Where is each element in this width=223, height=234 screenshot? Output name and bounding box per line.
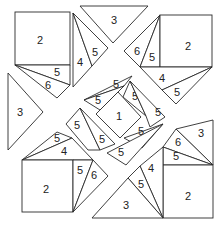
svg-text:2: 2 bbox=[43, 183, 49, 195]
svg-text:2: 2 bbox=[37, 34, 43, 46]
svg-text:5: 5 bbox=[92, 46, 98, 58]
tl-square-piece: 2 bbox=[15, 12, 70, 65]
svg-text:5: 5 bbox=[99, 133, 105, 145]
svg-text:5: 5 bbox=[155, 106, 161, 118]
tr-square-piece: 2 bbox=[160, 15, 212, 67]
svg-text:2: 2 bbox=[185, 190, 191, 202]
svg-text:3: 3 bbox=[111, 14, 117, 26]
svg-text:6: 6 bbox=[45, 79, 51, 91]
left-triangle-3: 3 bbox=[8, 73, 43, 150]
svg-text:5: 5 bbox=[173, 150, 179, 162]
svg-text:5: 5 bbox=[95, 94, 101, 106]
bl-square-piece: 2 bbox=[22, 160, 73, 212]
svg-text:5: 5 bbox=[54, 132, 60, 144]
svg-text:5: 5 bbox=[138, 178, 144, 190]
svg-text:4: 4 bbox=[77, 56, 83, 68]
svg-text:5: 5 bbox=[149, 51, 155, 63]
svg-text:4: 4 bbox=[159, 72, 165, 84]
svg-text:5: 5 bbox=[174, 86, 180, 98]
svg-text:6: 6 bbox=[175, 136, 181, 148]
svg-text:5: 5 bbox=[118, 146, 124, 158]
svg-text:6: 6 bbox=[134, 45, 140, 57]
svg-text:5: 5 bbox=[77, 164, 83, 176]
svg-text:1: 1 bbox=[116, 110, 122, 122]
svg-text:3: 3 bbox=[17, 106, 23, 118]
svg-text:3: 3 bbox=[123, 199, 129, 211]
svg-text:3: 3 bbox=[198, 127, 204, 139]
svg-text:6: 6 bbox=[91, 169, 97, 181]
svg-text:4: 4 bbox=[148, 162, 154, 174]
svg-text:5: 5 bbox=[54, 66, 60, 78]
svg-text:4: 4 bbox=[61, 145, 67, 157]
puzzle-diagram: 2 5 6 4 5 3 6 5 2 4 5 bbox=[0, 0, 223, 234]
br-square-piece: 2 bbox=[163, 165, 213, 218]
svg-text:2: 2 bbox=[185, 40, 191, 52]
svg-text:5: 5 bbox=[74, 119, 80, 131]
